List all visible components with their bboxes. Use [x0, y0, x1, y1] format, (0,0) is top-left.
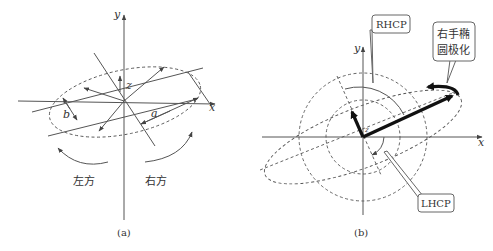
x-axis-label-a: x — [209, 101, 216, 114]
right-hand-elliptical-line1: 右手椭 — [437, 27, 470, 41]
panel-b: RHCP 右手椭 圆极化 LHCP y x z (b) — [254, 15, 485, 238]
ellipse-axis-b — [260, 92, 455, 170]
y-axis-label-b: y — [353, 42, 361, 55]
rotation-label-right: 右方 — [145, 174, 167, 188]
x-axis-label-b: x — [478, 136, 485, 149]
rhep-callout-tail — [447, 60, 456, 83]
z-axis-label-a: z — [125, 79, 132, 92]
caption-b: (b) — [354, 227, 368, 238]
rhcp-label: RHCP — [376, 19, 407, 30]
rhcp-arc — [345, 87, 404, 115]
dimension-b-label: b — [63, 108, 70, 121]
ellipse-major-axis — [48, 99, 197, 136]
panel-a: y x z a b 左方 右方 (a) — [18, 8, 216, 238]
lhcp-label: LHCP — [421, 198, 451, 209]
lhcp-arc — [372, 137, 384, 155]
ellipse-tangent-upper — [32, 68, 203, 112]
rotation-arrow-left — [58, 148, 108, 164]
right-hand-elliptical-line2: 圆极化 — [437, 43, 470, 57]
dimension-a-label: a — [151, 107, 158, 120]
lhcp-callout-tail — [384, 151, 423, 197]
y-axis-label-a: y — [113, 8, 121, 21]
caption-a: (a) — [117, 227, 131, 238]
rotation-label-left: 左方 — [73, 174, 95, 188]
rotation-arrow-right — [145, 132, 192, 162]
minor-vector-b — [352, 112, 363, 137]
ellipse-tangent-right — [188, 72, 210, 104]
field-vector — [99, 101, 124, 131]
polarization-diagram: y x z a b 左方 右方 (a) RHCP 右手椭 圆 — [0, 0, 493, 251]
z-axis-label-b: z — [364, 126, 369, 134]
rhcp-callout-tail — [370, 30, 373, 83]
